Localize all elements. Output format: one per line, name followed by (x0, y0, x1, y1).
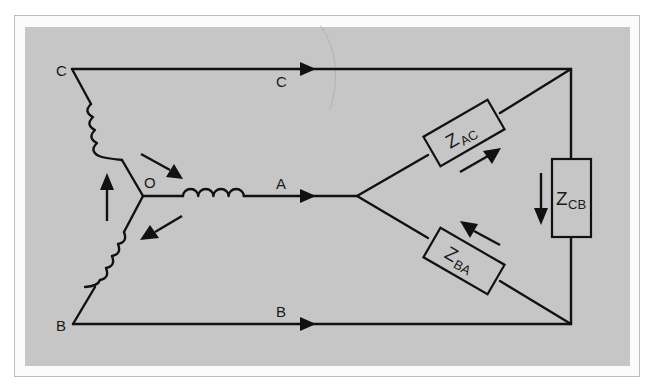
arrow-up-icon (100, 173, 114, 190)
coil-b-icon (85, 232, 125, 287)
arrow-down-icon (534, 208, 548, 225)
zac-current-arrow (460, 156, 488, 172)
line-a-arrow-icon (300, 189, 316, 203)
b-lead (73, 287, 95, 324)
b-to-neutral (124, 196, 143, 232)
circuit-diagram: C B O C A B Z AC Z BA Z CB (0, 0, 658, 392)
line-a-label: A (276, 175, 286, 192)
c-to-neutral (122, 160, 143, 196)
arrow-zba-icon (460, 221, 478, 238)
phase-arrow-down-left (155, 216, 182, 232)
z-cb-symbol: Z (556, 188, 568, 209)
coil-a-icon (183, 189, 244, 196)
a-to-zac (357, 155, 428, 196)
line-b-label: B (276, 303, 286, 320)
zba-to-b (500, 281, 571, 324)
coil-c-icon (87, 104, 122, 160)
node-b-label: B (56, 317, 66, 334)
a-to-zba (357, 196, 428, 238)
zac-to-c (500, 69, 571, 113)
arrow-down-right-icon (166, 164, 183, 179)
neutral-label: O (144, 174, 156, 191)
phase-arrow-down-right (141, 154, 170, 170)
node-c-label: C (56, 62, 67, 79)
c-lead (72, 69, 91, 104)
line-c-arrow-icon (300, 62, 316, 76)
scan-artifact (320, 25, 336, 110)
z-cb-subscript: CB (568, 197, 586, 212)
line-c-label: C (276, 73, 287, 90)
line-b-arrow-icon (300, 317, 316, 331)
zba-current-arrow (474, 231, 500, 245)
